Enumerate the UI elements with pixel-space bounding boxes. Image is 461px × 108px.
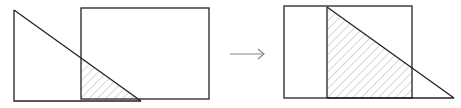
overlap-hatch-after [327,7,412,98]
panel-before [14,8,209,101]
panel-after [284,6,454,98]
transition-arrow-icon [230,49,264,59]
triangle-hypotenuse-before [14,10,141,101]
diagram-canvas [0,0,461,108]
